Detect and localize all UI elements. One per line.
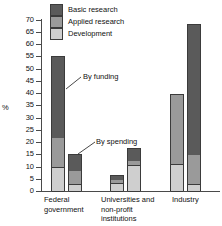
federal-government-spending-segment-basic-research [69, 155, 81, 171]
annotation-by-spending: By spending [96, 138, 137, 146]
universities-non-profit-funding-segment-applied-research [111, 180, 123, 184]
y-tick-35 [36, 105, 41, 106]
group-label-universities: Universities and non-profit institutions [101, 195, 154, 224]
y-tick-0 [36, 191, 41, 192]
legend-label-applied-research: Applied research [68, 18, 124, 26]
industry-funding-bar [170, 94, 184, 191]
y-tick-label-15: 15 [0, 150, 34, 158]
industry-spending-bar [187, 24, 201, 191]
legend-item-development: Development [50, 28, 124, 40]
y-tick-label-0: 0 [0, 187, 34, 195]
y-tick-label-60: 60 [0, 40, 34, 48]
annotation-by-funding: By funding [83, 73, 118, 81]
federal-government-funding-segment-development [52, 168, 64, 192]
y-tick-label-50: 50 [0, 65, 34, 73]
y-tick-70 [36, 20, 41, 21]
y-tick-40 [36, 93, 41, 94]
industry-spending-segment-development [188, 185, 200, 192]
legend-label-basic-research: Basic research [68, 6, 118, 14]
universities-non-profit-spending-bar [127, 148, 141, 191]
y-tick-5 [36, 179, 41, 180]
y-tick-label-5: 5 [0, 175, 34, 183]
universities-non-profit-spending-segment-development [128, 166, 140, 192]
stacked-bar-chart: Basic research Applied research Developm… [0, 0, 222, 226]
y-tick-10 [36, 167, 41, 168]
universities-non-profit-funding-segment-development [111, 184, 123, 192]
federal-government-funding-bar [51, 56, 65, 191]
industry-funding-segment-development [171, 165, 183, 192]
universities-non-profit-spending-segment-basic-research [128, 149, 140, 161]
y-tick-label-35: 35 [0, 101, 34, 109]
y-tick-45 [36, 81, 41, 82]
y-tick-30 [36, 118, 41, 119]
y-tick-label-40: 40 [0, 89, 34, 97]
legend-item-basic-research: Basic research [50, 4, 124, 16]
y-axis-line [41, 19, 42, 192]
y-tick-50 [36, 69, 41, 70]
federal-government-spending-bar [68, 154, 82, 191]
legend-item-applied-research: Applied research [50, 16, 124, 28]
federal-government-funding-segment-basic-research [52, 57, 64, 138]
legend-swatch-development [50, 28, 63, 40]
federal-government-spending-segment-development [69, 185, 81, 192]
y-tick-25 [36, 130, 41, 131]
y-tick-label-30: 30 [0, 114, 34, 122]
industry-spending-segment-basic-research [188, 25, 200, 154]
federal-government-spending-segment-applied-research [69, 171, 81, 185]
legend-label-development: Development [68, 30, 112, 38]
y-tick-15 [36, 154, 41, 155]
universities-non-profit-spending-segment-applied-research [128, 161, 140, 166]
y-tick-label-20: 20 [0, 138, 34, 146]
y-tick-label-70: 70 [0, 16, 34, 24]
universities-non-profit-funding-segment-basic-research [111, 176, 123, 180]
industry-spending-segment-applied-research [188, 155, 200, 185]
chart-legend: Basic research Applied research Developm… [50, 4, 124, 40]
y-tick-20 [36, 142, 41, 143]
y-tick-60 [36, 44, 41, 45]
legend-swatch-basic-research [50, 4, 63, 16]
y-tick-label-55: 55 [0, 52, 34, 60]
universities-non-profit-funding-bar [110, 175, 124, 191]
group-label-industry: Industry [172, 195, 199, 205]
legend-swatch-applied-research [50, 16, 63, 28]
y-tick-label-25: 25 [0, 126, 34, 134]
y-tick-label-45: 45 [0, 77, 34, 85]
group-label-federal-government: Federal government [44, 195, 84, 214]
y-tick-label-10: 10 [0, 163, 34, 171]
y-tick-55 [36, 56, 41, 57]
industry-funding-segment-applied-research [171, 95, 183, 165]
y-tick-65 [36, 32, 41, 33]
y-tick-label-65: 65 [0, 28, 34, 36]
federal-government-funding-segment-applied-research [52, 138, 64, 168]
